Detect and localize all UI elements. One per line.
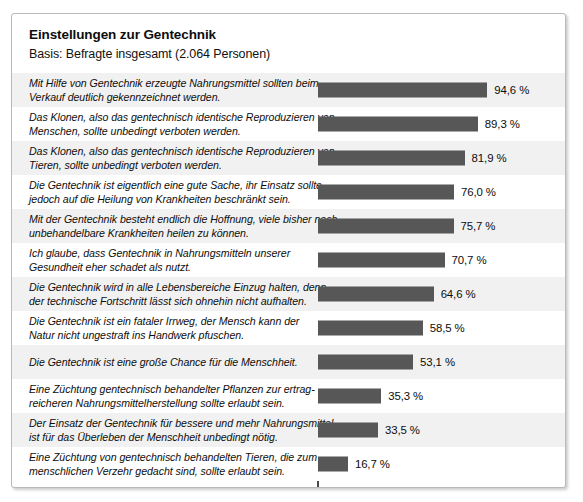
chart-bar xyxy=(318,151,465,166)
chart-bar-value: 81,9 % xyxy=(472,152,507,164)
chart-bar xyxy=(318,355,413,370)
chart-bar-area: 76,0 % xyxy=(318,175,565,209)
chart-row-label-line: Natur nicht ungestraft ins Handwerk pfus… xyxy=(29,328,314,342)
chart-row-label: Die Gentechnik ist eine große Chance für… xyxy=(29,345,314,379)
chart-row-label: Mit Hilfe von Gentechnik erzeugte Nahrun… xyxy=(29,73,314,107)
chart-row-label: Ich glaube, dass Gentechnik in Nahrungsm… xyxy=(29,243,314,277)
chart-bar xyxy=(318,219,454,234)
chart-bar xyxy=(318,117,478,132)
chart-bar-value: 94,6 % xyxy=(494,84,529,96)
chart-row: Der Einsatz der Gentechnik für bessere u… xyxy=(12,413,565,447)
chart-rows: Mit Hilfe von Gentechnik erzeugte Nahrun… xyxy=(12,73,565,481)
chart-row: Mit der Gentechnik besteht endlich die H… xyxy=(12,209,565,243)
chart-row-label-line: Eine Züchtung gentechnisch behandelter P… xyxy=(29,382,314,396)
chart-bar-area: 89,3 % xyxy=(318,107,565,141)
chart-row: Die Gentechnik ist eine große Chance für… xyxy=(12,345,565,379)
chart-bar-area: 94,6 % xyxy=(318,73,565,107)
chart-row-label-line: reicheren Nahrungsmittelherstellung soll… xyxy=(29,396,314,410)
chart-row-label: Die Gentechnik ist eigentlich eine gute … xyxy=(29,175,314,209)
chart-row: Das Klonen, also das gentechnisch identi… xyxy=(12,107,565,141)
chart-bar-area: 58,5 % xyxy=(318,311,565,345)
chart-row-label: Die Gentechnik ist ein fataler Irrweg, d… xyxy=(29,311,314,345)
chart-row-label-line: jedoch auf die Heilung von Krankheiten b… xyxy=(29,192,314,206)
chart-bar-value: 64,6 % xyxy=(441,288,476,300)
chart-row-label: Mit der Gentechnik besteht endlich die H… xyxy=(29,209,314,243)
chart-row-label-line: Mit Hilfe von Gentechnik erzeugte Nahrun… xyxy=(29,76,314,90)
chart-row-label-line: menschlichen Verzehr gedacht sind, sollt… xyxy=(29,464,314,478)
chart-row-label-line: Das Klonen, also das gentechnisch identi… xyxy=(29,110,314,124)
chart-row-label-line: Mit der Gentechnik besteht endlich die H… xyxy=(29,212,314,226)
chart-row-label-line: Die Gentechnik wird in alle Lebensbereic… xyxy=(29,280,314,294)
chart-row-label: Eine Züchtung von gentechnisch behandelt… xyxy=(29,447,314,481)
chart-bar-value: 33,5 % xyxy=(385,424,420,436)
chart-bar xyxy=(318,457,348,472)
chart-bar-area: 64,6 % xyxy=(318,277,565,311)
chart-bar-area: 70,7 % xyxy=(318,243,565,277)
chart-bar xyxy=(318,321,423,336)
chart-row: Eine Züchtung gentechnisch behandelter P… xyxy=(12,379,565,413)
chart-row-label-line: ist für das Überleben der Menschheit unb… xyxy=(29,430,314,444)
chart-row-label: Das Klonen, also das gentechnisch identi… xyxy=(29,141,314,175)
chart-row-label-line: Ich glaube, dass Gentechnik in Nahrungsm… xyxy=(29,246,314,260)
chart-row: Eine Züchtung von gentechnisch behandelt… xyxy=(12,447,565,481)
chart-row-label-line: Tieren, sollte unbedingt verboten werden… xyxy=(29,158,314,172)
chart-row: Die Gentechnik ist ein fataler Irrweg, d… xyxy=(12,311,565,345)
chart-row: Ich glaube, dass Gentechnik in Nahrungsm… xyxy=(12,243,565,277)
chart-bar-value: 16,7 % xyxy=(355,458,390,470)
chart-bar xyxy=(318,83,487,98)
chart-bar-value: 70,7 % xyxy=(452,254,487,266)
chart-title: Einstellungen zur Gentechnik xyxy=(29,27,216,42)
chart-row-label-line: der technische Fortschritt lässt sich oh… xyxy=(29,294,314,308)
chart-row-label-line: Gesundheit eher schadet als nutzt. xyxy=(29,260,314,274)
chart-bar-area: 33,5 % xyxy=(318,413,565,447)
chart-plot-area: Mit Hilfe von Gentechnik erzeugte Nahrun… xyxy=(12,73,565,487)
chart-row-label-line: Die Gentechnik ist ein fataler Irrweg, d… xyxy=(29,314,314,328)
chart-row: Das Klonen, also das gentechnisch identi… xyxy=(12,141,565,175)
chart-bar-area: 53,1 % xyxy=(318,345,565,379)
chart-bar-value: 58,5 % xyxy=(430,322,465,334)
chart-bar-area: 81,9 % xyxy=(318,141,565,175)
chart-subtitle: Basis: Befragte insgesamt (2.064 Persone… xyxy=(29,47,270,61)
chart-bar xyxy=(318,423,378,438)
chart-row-label-line: Die Gentechnik ist eigentlich eine gute … xyxy=(29,178,314,192)
chart-panel: Einstellungen zur Gentechnik Basis: Befr… xyxy=(11,13,566,488)
chart-row-label: Der Einsatz der Gentechnik für bessere u… xyxy=(29,413,314,447)
chart-row-label-line: Der Einsatz der Gentechnik für bessere u… xyxy=(29,416,314,430)
chart-panel-inner: Einstellungen zur Gentechnik Basis: Befr… xyxy=(12,14,565,487)
chart-row: Mit Hilfe von Gentechnik erzeugte Nahrun… xyxy=(12,73,565,107)
chart-bar xyxy=(318,287,434,302)
chart-bar-value: 75,7 % xyxy=(461,220,496,232)
chart-bar-value: 89,3 % xyxy=(485,118,520,130)
chart-bar xyxy=(318,389,381,404)
chart-bar-area: 16,7 % xyxy=(318,447,565,481)
chart-row-label-line: Eine Züchtung von gentechnisch behandelt… xyxy=(29,450,314,464)
chart-row-label: Die Gentechnik wird in alle Lebensbereic… xyxy=(29,277,314,311)
chart-row: Die Gentechnik wird in alle Lebensbereic… xyxy=(12,277,565,311)
chart-row-label-line: Verkauf deutlich gekennzeichnet werden. xyxy=(29,90,314,104)
chart-row-label-line: Die Gentechnik ist eine große Chance für… xyxy=(29,355,314,369)
chart-bar xyxy=(318,185,454,200)
chart-bar-value: 35,3 % xyxy=(388,390,423,402)
chart-row: Die Gentechnik ist eigentlich eine gute … xyxy=(12,175,565,209)
chart-row-label-line: unbehandelbare Krankheiten heilen zu kön… xyxy=(29,226,314,240)
chart-row-label: Das Klonen, also das gentechnisch identi… xyxy=(29,107,314,141)
chart-bar xyxy=(318,253,445,268)
chart-row-label: Eine Züchtung gentechnisch behandelter P… xyxy=(29,379,314,413)
chart-bar-area: 75,7 % xyxy=(318,209,565,243)
chart-row-label-line: Menschen, sollte unbedingt verboten werd… xyxy=(29,124,314,138)
chart-bar-value: 76,0 % xyxy=(461,186,496,198)
chart-screenshot: Einstellungen zur Gentechnik Basis: Befr… xyxy=(0,0,583,502)
chart-bar-value: 53,1 % xyxy=(420,356,455,368)
chart-row-label-line: Das Klonen, also das gentechnisch identi… xyxy=(29,144,314,158)
chart-bar-area: 35,3 % xyxy=(318,379,565,413)
